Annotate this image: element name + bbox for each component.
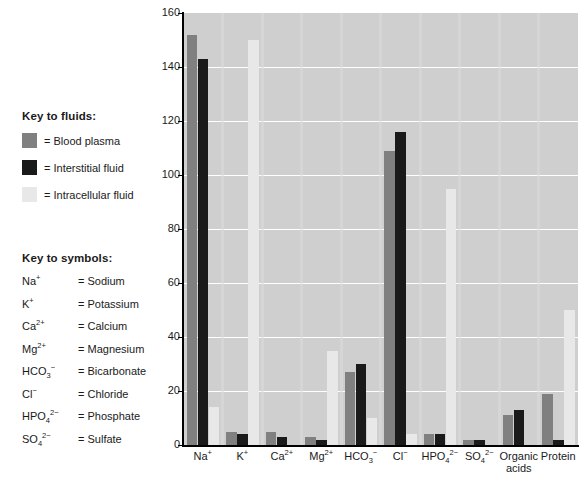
symbol-row: Mg2+= Magnesium [22, 343, 175, 355]
bar [564, 310, 575, 445]
symbol-formula: HCO3− [22, 365, 78, 377]
bar [542, 394, 553, 445]
bar [327, 351, 338, 446]
y-axis-line [182, 12, 184, 446]
legend-label-interstitial-fluid: = Interstitial fluid [44, 162, 124, 174]
bar [503, 415, 514, 445]
y-tick-label: 20 [140, 384, 180, 396]
bar [406, 434, 417, 445]
bar [424, 434, 435, 445]
symbol-row: HCO3−= Bicarbonate [22, 365, 175, 377]
y-tick-mark [178, 337, 182, 338]
symbol-row: HPO42−= Phosphate [22, 410, 175, 422]
bar [209, 407, 220, 445]
bar [435, 434, 446, 445]
symbol-name: = Magnesium [78, 343, 144, 355]
category-separator [221, 13, 224, 445]
symbols-legend-heading: Key to symbols: [22, 252, 175, 264]
symbol-formula: Cl− [22, 388, 78, 400]
symbol-formula: HPO42− [22, 410, 78, 422]
category-separator [379, 13, 382, 445]
y-tick-label: 140 [140, 60, 180, 72]
bar [226, 432, 237, 446]
y-tick-mark [178, 67, 182, 68]
bar [305, 437, 316, 445]
bar [514, 410, 525, 445]
y-tick-label: 60 [140, 276, 180, 288]
bar [384, 151, 395, 445]
bar [277, 437, 288, 445]
symbols-list: Na+= SodiumK+= PotassiumCa2+= CalciumMg2… [0, 275, 175, 445]
category-separator [498, 13, 501, 445]
x-tick-label: Protein [533, 450, 585, 462]
y-tick-mark [178, 391, 182, 392]
bar [345, 372, 356, 445]
bar [356, 364, 367, 445]
legend-swatch-blood-plasma [22, 133, 37, 148]
symbol-formula: Na+ [22, 275, 78, 287]
category-separator [458, 13, 461, 445]
plot-area [183, 13, 578, 445]
category-separator [537, 13, 540, 445]
bar [248, 40, 259, 445]
y-tick-mark [178, 13, 182, 14]
fluids-legend: Key to fluids: = Blood plasma = Intersti… [0, 110, 160, 214]
legend-item-intracellular-fluid: = Intracellular fluid [22, 187, 160, 202]
bar [198, 59, 209, 445]
y-tick-mark [178, 229, 182, 230]
symbol-name: = Potassium [78, 298, 139, 310]
y-tick-label: 0 [140, 438, 180, 450]
chart-figure: Key to fluids: = Blood plasma = Intersti… [0, 0, 586, 489]
legend-label-intracellular-fluid: = Intracellular fluid [44, 189, 134, 201]
y-tick-mark [178, 175, 182, 176]
y-tick-label: 40 [140, 330, 180, 342]
bar [395, 132, 406, 445]
bar [367, 418, 378, 445]
symbol-formula: K+ [22, 298, 78, 310]
y-tick-mark [178, 283, 182, 284]
category-separator [419, 13, 422, 445]
category-separator [261, 13, 264, 445]
bar [266, 432, 277, 446]
legend-label-blood-plasma: = Blood plasma [44, 135, 120, 147]
symbol-name: = Bicarbonate [78, 365, 146, 377]
x-axis-line [182, 445, 579, 447]
symbol-name: = Sodium [78, 275, 125, 287]
category-separator [340, 13, 343, 445]
y-tick-label: 160 [140, 6, 180, 18]
symbol-row: K+= Potassium [22, 298, 175, 310]
legend-swatch-interstitial-fluid [22, 160, 37, 175]
symbol-formula: Ca2+ [22, 320, 78, 332]
y-tick-mark [178, 445, 182, 446]
symbol-name: = Phosphate [78, 410, 140, 422]
symbol-formula: Mg2+ [22, 343, 78, 355]
legend-item-blood-plasma: = Blood plasma [22, 133, 160, 148]
category-separator [300, 13, 303, 445]
symbol-name: = Chloride [78, 388, 128, 400]
bar [446, 189, 457, 446]
plot-inner [183, 13, 578, 445]
symbol-name: = Sulfate [78, 433, 122, 445]
y-tick-label: 100 [140, 168, 180, 180]
symbol-name: = Calcium [78, 320, 127, 332]
y-tick-label: 120 [140, 114, 180, 126]
y-tick-label: 80 [140, 222, 180, 234]
symbol-formula: SO42− [22, 433, 78, 445]
bar [187, 35, 198, 445]
legend-swatch-intracellular-fluid [22, 187, 37, 202]
y-tick-mark [178, 121, 182, 122]
bar [237, 434, 248, 445]
